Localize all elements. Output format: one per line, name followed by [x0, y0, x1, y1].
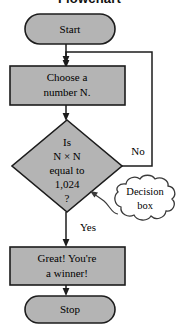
- edge-choose-to-decision: [63, 105, 70, 121]
- callout-line2: box: [137, 200, 154, 211]
- node-stop[interactable]: Stop: [25, 296, 115, 323]
- callout-decision-box: Decision box: [115, 175, 175, 220]
- node-choose-number[interactable]: Choose a number N.: [10, 66, 125, 105]
- callout-leader-line: [90, 191, 118, 214]
- node-choose-line1: Choose a: [47, 71, 88, 83]
- node-start[interactable]: Start: [25, 14, 115, 44]
- node-decision-line1: Is: [63, 136, 71, 148]
- node-decision-line3: equal to: [49, 164, 85, 176]
- node-stop-label: Stop: [60, 303, 81, 315]
- edge-winner-to-stop: [63, 285, 70, 296]
- edge-label-no: No: [131, 145, 145, 157]
- node-decision-line4: 1,024: [55, 178, 80, 190]
- node-winner[interactable]: Great! You're a winner!: [10, 247, 125, 285]
- flowchart-diagram: Flowchart: [0, 0, 179, 327]
- node-choose-line2: number N.: [43, 86, 90, 98]
- node-start-label: Start: [60, 23, 81, 35]
- flowchart-canvas: Start Choose a number N. Is N × N equal …: [0, 0, 179, 327]
- edge-decision-to-winner: [63, 212, 70, 247]
- edge-label-yes: Yes: [80, 221, 96, 233]
- node-decision[interactable]: Is N × N equal to 1,024 ?: [12, 120, 122, 212]
- node-decision-line5: ?: [65, 192, 70, 204]
- node-decision-line2: N × N: [53, 150, 81, 162]
- node-winner-line1: Great! You're: [38, 252, 97, 264]
- node-winner-line2: a winner!: [46, 267, 88, 279]
- callout-line1: Decision: [126, 186, 164, 197]
